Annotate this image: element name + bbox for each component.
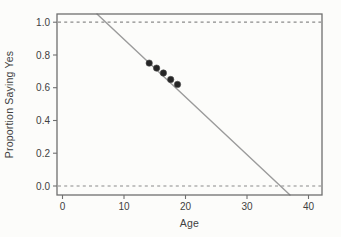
y-axis-tick-label: 0.0 bbox=[36, 181, 50, 192]
y-axis-tick-label: 0.4 bbox=[36, 115, 50, 126]
x-axis-label: Age bbox=[180, 217, 199, 229]
x-axis-tick-label: 30 bbox=[241, 201, 253, 212]
data-point bbox=[153, 65, 159, 71]
y-axis-tick-label: 0.8 bbox=[36, 50, 50, 61]
data-point bbox=[174, 81, 180, 87]
x-axis-tick-label: 40 bbox=[303, 201, 315, 212]
plot-frame bbox=[57, 14, 322, 195]
data-point bbox=[160, 70, 166, 76]
scatterplot-canvas: 0102030400.00.20.40.60.81.0AgeProportion… bbox=[0, 0, 341, 237]
x-axis-tick-label: 0 bbox=[60, 201, 66, 212]
data-point bbox=[168, 76, 174, 82]
x-axis-tick-label: 20 bbox=[180, 201, 192, 212]
y-axis-tick-label: 0.2 bbox=[36, 148, 50, 159]
x-axis-tick-label: 10 bbox=[118, 201, 130, 212]
chart: 0102030400.00.20.40.60.81.0AgeProportion… bbox=[0, 0, 341, 237]
y-axis-tick-label: 1.0 bbox=[36, 17, 50, 28]
y-axis-tick-label: 0.6 bbox=[36, 82, 50, 93]
regression-line bbox=[97, 14, 290, 195]
data-point bbox=[146, 60, 152, 66]
y-axis-label: Proportion Saying Yes bbox=[3, 51, 15, 159]
